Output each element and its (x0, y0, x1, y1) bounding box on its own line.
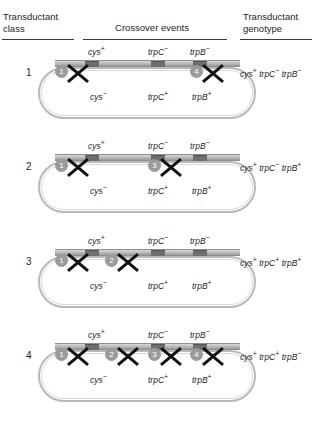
header-genotype-line2: genotype (243, 23, 313, 35)
crossover-x-icon (65, 344, 89, 368)
donor-gene-label-trpC: trpC− (148, 47, 168, 57)
recipient-gene-label-trpB: trpB+ (192, 92, 212, 102)
transductant-genotype-value: cys+ trpC+ trpB− (240, 352, 301, 362)
header-transductant-class: Transductant class (3, 11, 81, 34)
recipient-gene-label-trpB: trpB+ (192, 186, 212, 196)
donor-gene-label-cys: cys+ (88, 141, 105, 151)
crossover-x-icon (115, 344, 139, 368)
row-class-label: 4 (26, 350, 32, 361)
header-crossover-events: Crossover events (88, 22, 216, 34)
crossover-marker-2[interactable]: 2 (105, 250, 139, 274)
donor-gene-label-trpB: trpB− (190, 141, 210, 151)
crossover-marker-4[interactable]: 4 (190, 61, 224, 85)
transductant-row: 3cys+trpC−trpB−cys−trpC+trpB+12cys+ trpC… (0, 236, 313, 326)
donor-gene-label-cys: cys+ (88, 330, 105, 340)
recipient-gene-label-cys: cys− (90, 92, 107, 102)
donor-gene-label-cys: cys+ (88, 236, 105, 246)
header-transductant-genotype: Transductant genotype (243, 11, 313, 34)
crossover-x-icon (200, 61, 224, 85)
crossover-x-icon (65, 250, 89, 274)
header-rule-genotype (240, 39, 312, 40)
donor-gene-label-trpC: trpC− (148, 236, 168, 246)
recipient-gene-label-trpB: trpB+ (192, 375, 212, 385)
header-genotype-line1: Transductant (243, 11, 313, 23)
crossover-marker-1[interactable]: 1 (55, 344, 89, 368)
crossover-marker-1[interactable]: 1 (55, 61, 89, 85)
crossover-x-icon (65, 61, 89, 85)
recipient-gene-label-trpC: trpC+ (148, 281, 168, 291)
crossover-marker-1[interactable]: 1 (55, 250, 89, 274)
row-class-label: 1 (26, 67, 32, 78)
recipient-gene-label-trpB: trpB+ (192, 281, 212, 291)
transductant-row: 4cys+trpC−trpB−cys−trpC+trpB+1234cys+ tr… (0, 330, 313, 420)
donor-gene-label-trpB: trpB− (190, 236, 210, 246)
crossover-marker-3[interactable]: 3 (148, 155, 182, 179)
recipient-gene-label-trpC: trpC+ (148, 375, 168, 385)
recipient-gene-label-trpC: trpC+ (148, 186, 168, 196)
donor-gene-label-trpB: trpB− (190, 47, 210, 57)
transductant-genotype-value: cys+ trpC− trpB− (240, 69, 301, 79)
recipient-gene-label-cys: cys− (90, 186, 107, 196)
crossover-x-icon (65, 155, 89, 179)
crossover-marker-4[interactable]: 4 (190, 344, 224, 368)
recipient-gene-label-cys: cys− (90, 281, 107, 291)
header-class-line1: Transductant (3, 11, 81, 23)
recipient-gene-label-cys: cys− (90, 375, 107, 385)
transductant-genotype-value: cys+ trpC+ trpB+ (240, 258, 301, 268)
transductant-row: 1cys+trpC−trpB−cys−trpC+trpB+14cys+ trpC… (0, 47, 313, 137)
crossover-x-icon (200, 344, 224, 368)
row-class-label: 2 (26, 161, 32, 172)
header-class-line2: class (3, 23, 81, 35)
header-rule-crossover (83, 39, 227, 40)
crossover-x-icon (158, 155, 182, 179)
recipient-gene-label-trpC: trpC+ (148, 92, 168, 102)
crossover-x-icon (158, 344, 182, 368)
row-class-label: 3 (26, 256, 32, 267)
header-rule-class (2, 39, 74, 40)
transductant-row: 2cys+trpC−trpB−cys−trpC+trpB+13cys+ trpC… (0, 141, 313, 231)
donor-gene-label-cys: cys+ (88, 47, 105, 57)
donor-gene-label-trpB: trpB− (190, 330, 210, 340)
transductant-genotype-value: cys+ trpC− trpB+ (240, 163, 301, 173)
crossover-x-icon (115, 250, 139, 274)
donor-gene-label-trpC: trpC− (148, 330, 168, 340)
crossover-marker-3[interactable]: 3 (148, 344, 182, 368)
crossover-marker-2[interactable]: 2 (105, 344, 139, 368)
crossover-marker-1[interactable]: 1 (55, 155, 89, 179)
transduction-crossover-figure: Transductant class Crossover events Tran… (0, 0, 313, 421)
donor-gene-label-trpC: trpC− (148, 141, 168, 151)
